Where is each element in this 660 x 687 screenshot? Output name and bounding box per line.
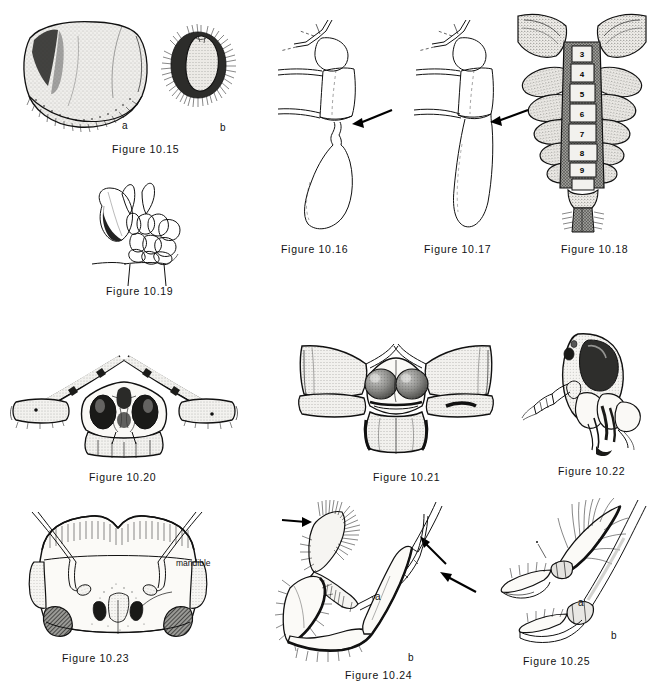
figure-10-18-segment-9: 9 — [577, 166, 587, 175]
figure-10-20-caption: Figure 10.20 — [89, 471, 156, 483]
figure-10-25-sublabel-a: a — [578, 597, 584, 608]
figure-10-15-sublabel-a: a — [122, 120, 128, 131]
figure-10-24-illustration — [280, 500, 480, 670]
figure-10-18-segment-6: 6 — [577, 110, 587, 119]
figure-10-17-caption: Figure 10.17 — [424, 243, 491, 255]
figure-10-24-sublabel-a: a — [375, 591, 381, 602]
figure-10-24-sublabel-b: b — [408, 652, 414, 663]
figure-10-19-caption: Figure 10.19 — [106, 285, 173, 297]
figure-10-20-illustration — [8, 344, 240, 460]
figure-10-18-segment-3: 3 — [577, 50, 587, 59]
figure-10-16-illustration — [276, 14, 396, 234]
figure-10-19-illustration — [80, 176, 210, 288]
figure-10-25-illustration — [498, 500, 648, 658]
figure-10-25-caption: Figure 10.25 — [523, 655, 590, 667]
figure-10-23-caption: Figure 10.23 — [62, 652, 129, 664]
figure-10-15-caption: Figure 10.15 — [112, 143, 179, 155]
figure-10-22-illustration — [518, 332, 650, 462]
figure-10-18-segment-5: 5 — [577, 90, 587, 99]
figure-10-23-illustration — [12, 504, 232, 654]
figure-10-24-caption: Figure 10.24 — [345, 669, 412, 681]
figure-10-21-caption: Figure 10.21 — [373, 471, 440, 483]
figure-10-15-illustration — [18, 14, 268, 139]
figure-10-15-sublabel-b: b — [220, 122, 226, 133]
figure-10-22-caption: Figure 10.22 — [558, 465, 625, 477]
figure-10-18-caption: Figure 10.18 — [561, 243, 628, 255]
figure-10-21-illustration — [296, 340, 496, 466]
figure-10-18-segment-8: 8 — [577, 149, 587, 158]
figure-plate: a b Figure 10.15 — [0, 0, 660, 687]
figure-10-18-illustration — [512, 12, 652, 234]
figure-10-18-segment-4: 4 — [577, 70, 587, 79]
figure-10-23-mandible-label: mandible — [176, 558, 211, 568]
figure-10-16-caption: Figure 10.16 — [281, 243, 348, 255]
figure-10-25-sublabel-b: b — [611, 630, 617, 641]
figure-10-18-segment-7: 7 — [577, 130, 587, 139]
